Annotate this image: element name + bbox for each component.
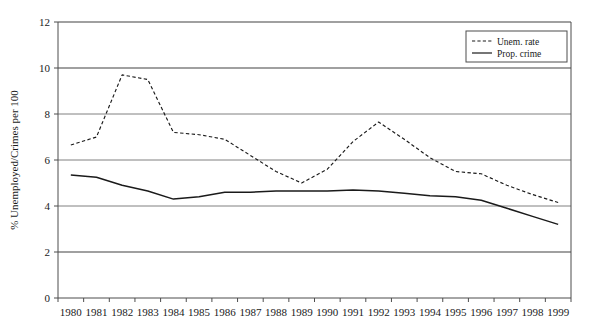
legend-label-prop-crime: Prop. crime (497, 49, 541, 59)
x-tick-label: 1997 (496, 306, 519, 318)
legend-label-unem-rate: Unem. rate (497, 37, 539, 47)
x-tick-label: 1988 (265, 306, 288, 318)
y-tick-label: 8 (45, 108, 51, 120)
chart-svg: 024681012 198019811982198319841985198619… (0, 0, 594, 335)
x-tick-label: 1984 (162, 306, 185, 318)
x-axis-ticks: 1980198119821983198419851986198719881989… (58, 298, 571, 318)
y-tick-label: 2 (45, 246, 51, 258)
y-tick-label: 4 (45, 200, 51, 212)
x-tick-label: 1992 (368, 306, 390, 318)
x-tick-label: 1983 (137, 306, 160, 318)
chart-legend: Unem. rate Prop. crime (466, 31, 567, 62)
x-tick-label: 1985 (188, 306, 211, 318)
y-tick-label: 10 (39, 62, 51, 74)
y-tick-label: 6 (45, 154, 51, 166)
y-tick-label: 0 (45, 292, 51, 304)
x-tick-label: 1995 (445, 306, 468, 318)
x-tick-label: 1993 (393, 306, 416, 318)
x-tick-label: 1989 (291, 306, 314, 318)
x-tick-label: 1996 (470, 306, 493, 318)
x-tick-label: 1982 (111, 306, 133, 318)
x-tick-label: 1990 (316, 306, 339, 318)
x-tick-label: 1987 (239, 306, 262, 318)
y-tick-label: 12 (39, 16, 50, 28)
x-tick-label: 1994 (419, 306, 442, 318)
x-tick-label: 1981 (85, 306, 107, 318)
x-tick-label: 1980 (60, 306, 83, 318)
x-tick-label: 1999 (547, 306, 570, 318)
x-tick-label: 1986 (214, 306, 237, 318)
y-axis-title: % Unemployed/Crimes per 100 (8, 90, 20, 230)
y-axis-ticks: 024681012 (39, 16, 58, 304)
x-tick-label: 1991 (342, 306, 364, 318)
chart-figure: 024681012 198019811982198319841985198619… (0, 0, 594, 335)
x-tick-label: 1998 (522, 306, 545, 318)
